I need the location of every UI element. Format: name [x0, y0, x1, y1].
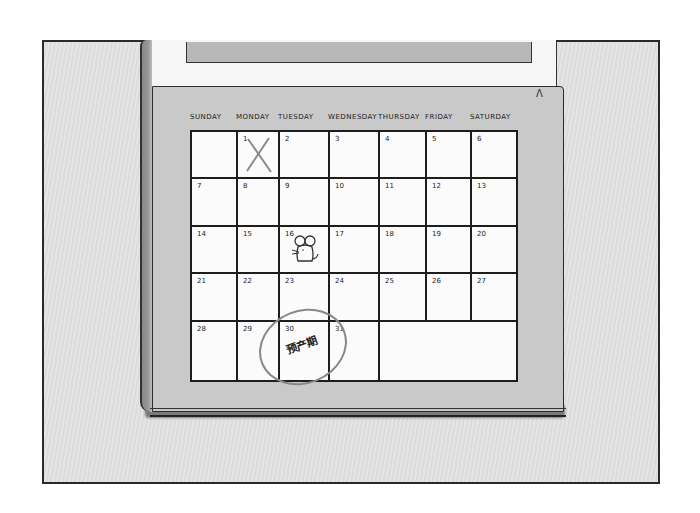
day-cell-2: 2	[280, 132, 330, 179]
day-cell-24: 24	[330, 274, 380, 322]
day-cell-8: 8	[238, 179, 280, 227]
day-cell-1: 1	[238, 132, 280, 179]
weekday-header: SUNDAY MONDAY TUESDAY WEDNESDAY THURSDAY…	[190, 113, 520, 127]
cross-out-icon	[244, 136, 274, 174]
day-cell-25: 25	[380, 274, 427, 322]
day-cell-15: 15	[238, 227, 280, 274]
day-cell-empty	[192, 132, 238, 179]
day-cell-3: 3	[330, 132, 380, 179]
hanger-tab	[186, 42, 532, 63]
empty-cells	[380, 322, 516, 380]
weekday-saturday: SATURDAY	[470, 113, 520, 127]
day-cell-28: 28	[192, 322, 238, 380]
day-cell-4: 4	[380, 132, 427, 179]
mouse-doodle-icon	[288, 233, 320, 267]
weekday-tuesday: TUESDAY	[278, 113, 328, 127]
day-cell-6: 6	[472, 132, 516, 179]
weekday-sunday: SUNDAY	[190, 113, 236, 127]
day-cell-19: 19	[427, 227, 472, 274]
weekday-friday: FRIDAY	[425, 113, 470, 127]
weekday-monday: MONDAY	[236, 113, 278, 127]
day-cell-7: 7	[192, 179, 238, 227]
weekday-wednesday: WEDNESDAY	[328, 113, 378, 127]
corner-mark: Λ	[536, 88, 543, 99]
day-cell-13: 13	[472, 179, 516, 227]
day-cell-12: 12	[427, 179, 472, 227]
day-cell-26: 26	[427, 274, 472, 322]
day-cell-5: 5	[427, 132, 472, 179]
day-cell-11: 11	[380, 179, 427, 227]
day-cell-27: 27	[472, 274, 516, 322]
page-stack-edge	[150, 408, 566, 417]
day-cell-17: 17	[330, 227, 380, 274]
day-cell-9: 9	[280, 179, 330, 227]
day-cell-16: 16	[280, 227, 330, 274]
day-cell-18: 18	[380, 227, 427, 274]
day-cell-20: 20	[472, 227, 516, 274]
day-cell-14: 14	[192, 227, 238, 274]
day-cell-21: 21	[192, 274, 238, 322]
day-cell-22: 22	[238, 274, 280, 322]
weekday-thursday: THURSDAY	[378, 113, 425, 127]
day-cell-10: 10	[330, 179, 380, 227]
calendar-grid: 1 2 3 4 5 6 7 8 9 10 11 12 13 14 15 16 1…	[190, 130, 518, 382]
